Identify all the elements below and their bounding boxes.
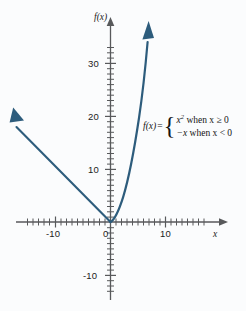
piecewise-function-annotation: f(x) = { x2 when x ≥ 0 −x when x < 0 xyxy=(143,113,232,139)
x-tick-label-minus10: -10 xyxy=(46,229,60,239)
annotation-case-2: −x when x < 0 xyxy=(177,127,233,140)
y-axis-label: f(x) xyxy=(94,13,107,23)
y-axis-arrowhead xyxy=(107,17,115,26)
x-tick-label-zero: 0 xyxy=(103,229,108,239)
annotation-cases: x2 when x ≥ 0 −x when x < 0 xyxy=(177,113,233,139)
y-tick-label-20: 20 xyxy=(88,112,99,122)
x-tick-label-10: 10 xyxy=(160,229,171,239)
annotation-brace: { xyxy=(164,117,176,135)
x-axis-label: x xyxy=(213,230,217,240)
annotation-equals: = xyxy=(157,121,162,131)
x-axis-arrowhead xyxy=(219,218,228,226)
curve-right-arrowhead xyxy=(142,21,154,40)
y-tick-label-10: 10 xyxy=(88,165,99,175)
annotation-function-head: f(x) xyxy=(143,121,156,131)
annotation-case-2-condition: when x < 0 xyxy=(187,128,232,138)
y-tick-label-30: 30 xyxy=(88,59,99,69)
curve-left-arrowhead xyxy=(10,108,24,123)
coordinate-plot xyxy=(0,0,246,311)
annotation-case-2-expr: −x xyxy=(177,128,188,138)
y-tick-label-minus10: -10 xyxy=(83,271,97,281)
function-graph-figure: f(x) x -10 0 10 30 20 10 -10 f(x) = { x2… xyxy=(0,0,246,311)
annotation-case-1: x2 when x ≥ 0 xyxy=(177,113,233,127)
annotation-case-1-condition: when x ≥ 0 xyxy=(184,115,229,125)
